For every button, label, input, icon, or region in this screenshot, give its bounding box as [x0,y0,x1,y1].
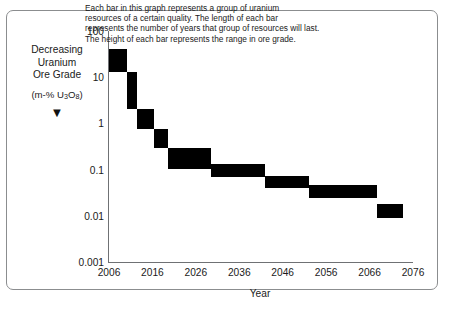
y-axis-tick-label: 0.001 [79,257,105,268]
y-axis-caption-line-3: Ore Grade [14,69,100,82]
plot-bars-container [109,31,413,262]
chart-bar [154,129,168,147]
chart-bar [127,72,137,110]
plot-area: 1001010.10.010.0012006201620262036204620… [108,31,413,263]
x-axis-tick-label: 2006 [98,267,121,278]
y-axis-tick-label: 0.1 [90,164,104,175]
decreasing-arrow-icon: ▼ [14,106,100,119]
x-axis-tick-label: 2066 [358,267,381,278]
x-axis-tick-label: 2046 [271,267,294,278]
chart-bar [168,148,211,169]
y-axis-tick-label: 0.01 [84,210,104,221]
annotation-line: The height of each bar represents the ra… [85,34,297,44]
y-axis-tick-label: 1 [98,118,104,129]
x-axis-label: Year [108,288,412,299]
annotation-line: resources of a certain quality. The leng… [85,13,297,23]
chart-bar [137,109,154,129]
chart-bar [211,164,265,178]
annotation-line: represents the number of years that grou… [85,23,297,33]
y-axis-units-label: (m-% U3O8) [14,89,100,101]
y-axis-units-prefix: (m-% U [31,89,64,100]
y-axis-units-suffix: ) [79,89,82,100]
x-axis-tick-label: 2036 [228,267,251,278]
figure-canvas: Decreasing Uranium Ore Grade (m-% U3O8) … [0,0,451,322]
y-axis-caption-line-1: Decreasing [14,44,100,57]
x-axis-tick-label: 2076 [402,267,425,278]
annotation-line: Each bar in this graph represents a grou… [85,3,297,13]
chart-bar [377,204,403,218]
chart-bar [109,49,127,72]
y-axis-caption-line-2: Uranium [14,57,100,70]
x-axis-tick-label: 2056 [315,267,338,278]
x-axis-tick-label: 2016 [141,267,164,278]
y-axis-caption: Decreasing Uranium Ore Grade [14,44,100,82]
chart-annotation-note: Each bar in this graph represents a grou… [85,3,297,44]
chart-bar [309,185,378,198]
x-axis-tick-label: 2026 [185,267,208,278]
y-axis-tick-label: 10 [93,72,104,83]
chart-bar [265,176,308,188]
